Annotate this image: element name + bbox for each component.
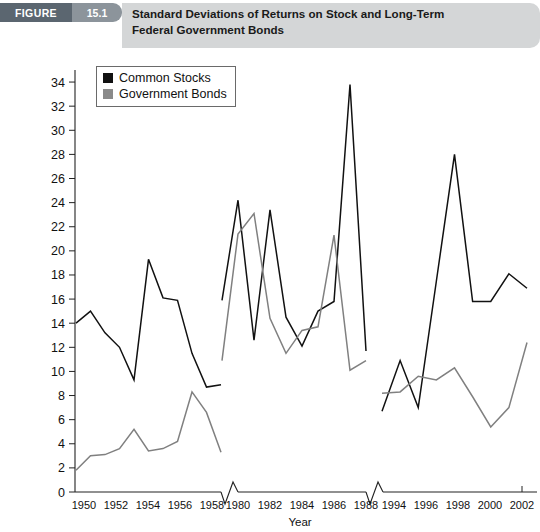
y-tick-label: 18 — [51, 268, 65, 282]
y-tick-label: 10 — [51, 365, 65, 379]
x-tick-label: 2000 — [478, 499, 502, 511]
x-tick-label: 1954 — [136, 499, 160, 511]
figure-word-badge: FIGURE — [0, 3, 72, 22]
legend-label-common-stocks: Common Stocks — [119, 71, 211, 85]
y-tick-label: 16 — [51, 293, 65, 307]
series-line-government-bonds-1980s — [222, 213, 366, 370]
page-title: Standard Deviations of Returns on Stock … — [132, 6, 462, 37]
chart-legend: Common Stocks Government Bonds — [96, 66, 236, 107]
black-square-icon — [103, 73, 113, 83]
series-line-common-stocks-1950s — [76, 259, 221, 387]
x-tick-label: 1996 — [414, 499, 438, 511]
x-tick-label: 1988 — [354, 499, 378, 511]
y-tick-label: 22 — [51, 220, 65, 234]
chart-plot-area: 2468101214161820222426283032340 19501952… — [0, 52, 540, 532]
y-tick-label: 2 — [58, 461, 65, 475]
series-line-government-bonds-1990s-2000s — [382, 342, 527, 426]
x-tick-label: 1956 — [168, 499, 192, 511]
data-series-group — [76, 84, 527, 470]
y-tick-label: 34 — [51, 76, 65, 90]
gray-square-icon — [103, 89, 113, 99]
series-line-common-stocks-1980s — [222, 84, 366, 350]
x-tick-label: 2002 — [510, 499, 534, 511]
series-line-common-stocks-1990s-2000s — [382, 154, 527, 411]
y-tick-label: 20 — [51, 244, 65, 258]
y-tick-label: 32 — [51, 100, 65, 114]
x-tick-label: 1994 — [382, 499, 406, 511]
x-tick-label: 1984 — [290, 499, 314, 511]
y-tick-label: 26 — [51, 172, 65, 186]
y-tick-label: 8 — [58, 389, 65, 403]
y-tick-label: 30 — [51, 124, 65, 138]
chart-svg: 2468101214161820222426283032340 19501952… — [0, 52, 540, 532]
y-tick-label: 24 — [51, 196, 65, 210]
x-tick-label: 1958 — [200, 499, 224, 511]
x-tick-label: 1980 — [226, 499, 250, 511]
x-tick-label: 1998 — [446, 499, 470, 511]
series-line-government-bonds-1950s — [76, 392, 221, 470]
y-tick-label: 28 — [51, 148, 65, 162]
figure-title-bar: Standard Deviations of Returns on Stock … — [122, 3, 540, 48]
legend-item-government-bonds: Government Bonds — [103, 86, 227, 102]
y-axis: 2468101214161820222426283032340 — [51, 70, 75, 500]
y-tick-label: 0 — [58, 486, 65, 500]
figure-header: FIGURE 15.1 Standard Deviations of Retur… — [0, 3, 540, 48]
y-tick-label: 14 — [51, 317, 65, 331]
y-tick-label: 4 — [58, 437, 65, 451]
y-tick-label: 6 — [58, 413, 65, 427]
legend-label-government-bonds: Government Bonds — [119, 87, 227, 101]
x-tick-label: 1986 — [322, 499, 346, 511]
legend-item-common-stocks: Common Stocks — [103, 70, 227, 86]
y-tick-label: 12 — [51, 341, 65, 355]
x-tick-label: 1950 — [72, 499, 96, 511]
x-tick-label: 1952 — [104, 499, 128, 511]
x-axis-title: Year — [288, 516, 311, 528]
x-axis: 1950195219541956195819801982198419861988… — [72, 482, 537, 511]
x-tick-label: 1982 — [258, 499, 282, 511]
figure-number-badge: 15.1 — [72, 3, 122, 22]
